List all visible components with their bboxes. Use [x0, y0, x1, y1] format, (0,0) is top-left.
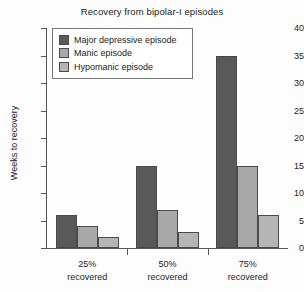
bar — [77, 226, 98, 248]
legend-item: Major depressive episode — [59, 33, 187, 47]
x-group-label-line: 50% — [123, 258, 213, 271]
y-tick-mark — [41, 248, 47, 249]
legend-item-label: Manic episode — [74, 48, 132, 58]
y-axis-title: Weeks to recovery — [9, 88, 19, 198]
bar-chart-figure: Recovery from bipolar-I episodes 0510152… — [0, 0, 304, 292]
bar — [178, 232, 199, 249]
x-tick-mark — [127, 249, 128, 255]
legend-item-label: Hypomanic episode — [74, 62, 153, 72]
legend-swatch-icon — [59, 62, 69, 72]
x-tick-mark — [208, 249, 209, 255]
x-group-label-line: 25% — [42, 258, 132, 271]
bar — [98, 237, 119, 248]
legend-item-label: Major depressive episode — [74, 35, 177, 45]
x-group-label: 25%recovered — [42, 258, 132, 283]
bar — [216, 56, 237, 249]
bar — [136, 166, 157, 249]
chart-legend: Major depressive episodeManic episodeHyp… — [52, 28, 193, 79]
legend-item: Hypomanic episode — [59, 60, 187, 74]
bar — [258, 215, 279, 248]
bar — [237, 166, 258, 249]
x-group-label-line: recovered — [203, 271, 293, 284]
x-group-label: 50%recovered — [123, 258, 213, 283]
x-group-label-line: recovered — [42, 271, 132, 284]
legend-item: Manic episode — [59, 47, 187, 61]
bar — [56, 215, 77, 248]
legend-swatch-icon — [59, 35, 69, 45]
bar — [157, 210, 178, 249]
x-group-label: 75%recovered — [203, 258, 293, 283]
chart-title: Recovery from bipolar-I episodes — [0, 6, 304, 17]
legend-swatch-icon — [59, 48, 69, 58]
x-group-label-line: recovered — [123, 271, 213, 284]
x-group-label-line: 75% — [203, 258, 293, 271]
x-axis-line — [46, 248, 288, 249]
